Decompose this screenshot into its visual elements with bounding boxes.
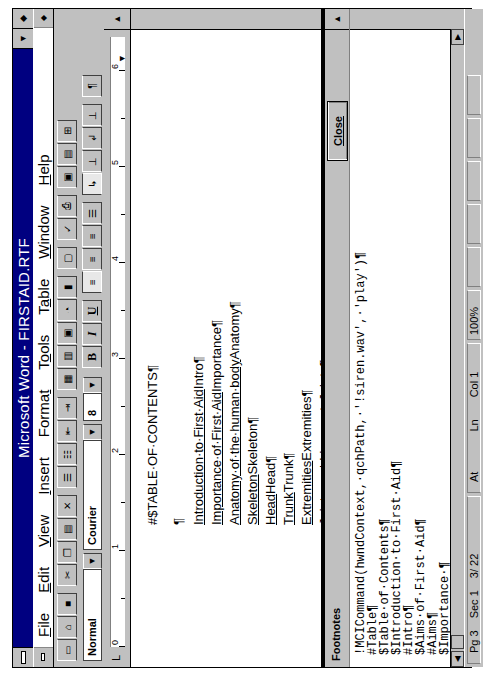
bulleted-list-button[interactable]: ☷ xyxy=(57,443,77,465)
zoom-100-button[interactable]: ▤ xyxy=(57,143,77,165)
menu-table-rest: ble xyxy=(35,279,52,299)
scroll-right-button[interactable]: ▶ xyxy=(451,29,464,45)
tab-selector[interactable]: L xyxy=(110,651,124,665)
decrease-indent-button[interactable]: ⇤ xyxy=(57,420,77,442)
save-disk-icon: ■ xyxy=(62,601,73,607)
scroll-up-button[interactable]: ▲ xyxy=(104,9,130,30)
menu-window[interactable]: Window xyxy=(35,195,52,268)
system-menu-button[interactable] xyxy=(13,647,33,667)
zoom-whole-page-button[interactable]: ▣ xyxy=(57,166,77,188)
show-hide-button[interactable]: ¶ xyxy=(82,75,102,97)
align-left-button[interactable]: ≡ xyxy=(82,271,102,293)
numbered-list-button[interactable]: ☰ xyxy=(57,466,77,488)
format-painter-icon: ✕ xyxy=(62,502,73,510)
footnote-scroll-up-button[interactable]: ▲ xyxy=(325,9,349,30)
style-combo[interactable]: Normal xyxy=(83,569,102,661)
horizontal-scrollbar[interactable]: ◀ ▶ xyxy=(450,29,465,667)
align-center-button[interactable]: ≡ xyxy=(82,248,102,270)
bold-button[interactable]: B xyxy=(82,346,102,368)
menu-file[interactable]: File xyxy=(35,603,52,647)
menu-insert-accel: I xyxy=(35,491,52,495)
menu-format-pre: Forma xyxy=(35,394,52,437)
font-size-dropdown-button[interactable]: ▼ xyxy=(83,377,102,393)
bulleted-list-icon: ☷ xyxy=(62,450,73,459)
right-tab-button[interactable]: ↲ xyxy=(82,127,102,149)
footnote-vertical-scrollbar[interactable] xyxy=(350,9,450,30)
menu-insert[interactable]: Insert xyxy=(35,447,52,505)
style-dropdown-button[interactable]: ▼ xyxy=(83,553,102,569)
menu-format[interactable]: Format xyxy=(35,380,52,448)
decimal-tab-button[interactable]: ⊥ xyxy=(82,104,102,126)
new-button[interactable]: ▭ xyxy=(57,639,77,661)
doc-empty-paragraph: ¶ xyxy=(171,518,186,525)
zoom-page-width-button[interactable]: ⊞ xyxy=(57,120,77,142)
chart-button[interactable]: ▮ xyxy=(57,276,77,298)
format-painter-button[interactable]: ✕ xyxy=(57,495,77,517)
save-button[interactable]: ■ xyxy=(57,593,77,615)
spelling-button[interactable]: ✓ xyxy=(57,218,77,240)
drawing-button[interactable]: ◔ xyxy=(57,299,77,321)
document-system-menu[interactable] xyxy=(34,647,53,667)
menu-table[interactable]: Table xyxy=(35,269,52,325)
left-tab-button[interactable]: ↳ xyxy=(82,173,102,195)
minimize-button[interactable]: ▼ xyxy=(13,29,33,49)
menu-view[interactable]: View xyxy=(35,505,52,557)
font-dropdown-button[interactable]: ▼ xyxy=(83,424,102,440)
columns-button[interactable]: ▥ xyxy=(57,345,77,367)
status-cursor-group: At Ln Col 1 xyxy=(467,343,481,493)
ruler-mark-1: 1 xyxy=(110,544,120,549)
right-indent-marker[interactable]: ▼ xyxy=(117,54,127,63)
toc-link-anatomy[interactable]: Anatomy·of·the·human·bodyAnatomy¶ xyxy=(227,301,242,525)
copy-button[interactable]: ❐ xyxy=(57,541,77,563)
word-window: Microsoft Word - FIRSTAID.RTF ▼ ◆ File E… xyxy=(12,8,472,668)
toc-link-skeleton[interactable]: SkeletonSkeleton¶ xyxy=(245,417,260,525)
menu-help[interactable]: Help xyxy=(35,145,52,196)
footnote-text-area[interactable]: !MCICommand(hwndContext,·qchPath,·'!sire… xyxy=(350,29,450,667)
align-right-button[interactable]: ≡ xyxy=(82,225,102,247)
close-footnotes-button[interactable]: Close xyxy=(327,101,348,161)
status-bar: Pg 3 Sec 1 3/ 22 At Ln Col 1 100% xyxy=(464,9,483,667)
toc-link-trunk[interactable]: TrunkTrunk¶ xyxy=(281,453,296,525)
ruler-mark-2: 2 xyxy=(110,448,120,453)
cut-button[interactable]: ✂ xyxy=(57,564,77,586)
horizontal-scroll-thumb[interactable] xyxy=(451,635,464,649)
insert-table-icon: ▦ xyxy=(62,375,73,384)
toc-link-text: Anatomy·of·the·human·body xyxy=(227,360,242,525)
footnote-line: $Importance·¶ xyxy=(438,561,450,655)
ruler-strip[interactable]: 0 1 2 3 4 5 6 ▼ xyxy=(110,37,125,647)
menu-view-rest: iew xyxy=(35,515,52,538)
toc-link-head[interactable]: HeadHead¶ xyxy=(263,456,278,525)
toc-link-extremities[interactable]: ExtremitiesExtremities¶ xyxy=(299,389,314,525)
status-at: At xyxy=(468,466,480,488)
copy-icon: ❐ xyxy=(62,548,73,557)
dropdown-arrow-icon: ▼ xyxy=(87,557,97,566)
document-area[interactable]: #$TABLE·OF·CONTENTS¶ ¶ Introduction·to·F… xyxy=(131,29,321,667)
justify-button[interactable]: ☰ xyxy=(82,202,102,224)
restore-button[interactable]: ◆ xyxy=(13,9,33,29)
print-button[interactable]: ⎙ xyxy=(57,195,77,217)
menu-edit[interactable]: Edit xyxy=(35,557,52,603)
frame-button[interactable]: ▣ xyxy=(57,322,77,344)
toc-link-intro[interactable]: Introduction·to·First·AidIntro¶ xyxy=(191,356,206,525)
arrow-right-icon: ▶ xyxy=(453,34,462,40)
center-tab-button[interactable]: ⊥ xyxy=(82,150,102,172)
open-button[interactable]: ⌂ xyxy=(57,616,77,638)
toc-link-target: Head¶ xyxy=(263,456,278,494)
insert-frame-button[interactable]: ▢ xyxy=(57,247,77,269)
menu-insert-rest: nsert xyxy=(35,457,52,490)
font-combo[interactable]: Courier xyxy=(83,440,102,550)
italic-button[interactable]: I xyxy=(82,323,102,345)
toc-link-importance[interactable]: Importance·of·First·AidImportance¶ xyxy=(209,320,224,525)
increase-indent-button[interactable]: ⇥ xyxy=(57,397,77,419)
paste-button[interactable]: ▤ xyxy=(57,518,77,540)
right-tab-icon: ↲ xyxy=(87,134,98,142)
window-title: Microsoft Word - FIRSTAID.RTF xyxy=(15,49,32,647)
menu-tools[interactable]: Tools xyxy=(35,325,52,380)
insert-table-button[interactable]: ▦ xyxy=(57,368,77,390)
document-restore-button[interactable]: ◆ xyxy=(34,9,53,28)
underline-button[interactable]: U xyxy=(82,300,102,322)
scroll-left-button[interactable]: ◀ xyxy=(451,651,464,667)
status-col: Col 1 xyxy=(468,366,480,404)
document-vertical-scrollbar[interactable] xyxy=(131,9,321,30)
font-size-combo[interactable]: 8 xyxy=(83,393,102,421)
